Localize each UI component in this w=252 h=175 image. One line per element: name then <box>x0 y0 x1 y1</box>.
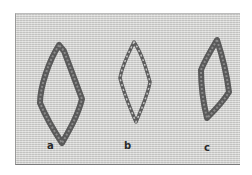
fabric-photo: a b c <box>15 13 240 165</box>
label-a: a <box>47 140 54 151</box>
stitch-sample-c <box>181 34 246 134</box>
stitch-sample-a <box>26 39 96 149</box>
label-b: b <box>124 140 131 151</box>
stitch-sample-b <box>104 36 164 136</box>
label-c: c <box>204 142 210 153</box>
